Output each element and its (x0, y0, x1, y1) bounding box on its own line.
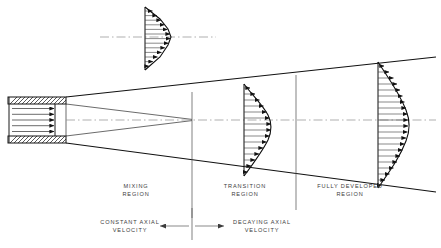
region-label-mixing-line1: MIXING (124, 183, 149, 189)
region-label-fully-developed-line2: REGION (336, 191, 363, 197)
exit-velocity-profile-detail (145, 7, 171, 70)
axial-velocity-annotations: CONSTANT AXIAL VELOCITY DECAYING AXIAL V… (100, 208, 291, 240)
diagram-canvas: MIXING REGION TRANSITION REGION FULLY DE… (0, 0, 441, 248)
annotation-constant-line1: CONSTANT AXIAL (100, 219, 159, 225)
region-label-transition-line1: TRANSITION (224, 183, 266, 189)
nozzle-assembly (8, 97, 66, 143)
region-labels: MIXING REGION TRANSITION REGION FULLY DE… (122, 183, 382, 197)
fully-developed-profile-envelope (378, 62, 409, 188)
annotation-decaying-line2: VELOCITY (245, 227, 279, 233)
region-label-fully-developed-line1: FULLY DEVELOPED (317, 183, 382, 189)
annotation-constant-line2: VELOCITY (113, 227, 147, 233)
transition-velocity-profile (244, 84, 271, 176)
free-jet-diagram: MIXING REGION TRANSITION REGION FULLY DE… (0, 0, 441, 248)
nozzle-lower-wall (8, 136, 66, 143)
region-label-transition-line2: REGION (231, 191, 258, 197)
region-label-mixing-line2: REGION (122, 191, 149, 197)
potential-core-upper (66, 104, 192, 119)
potential-core-lower (66, 121, 192, 136)
fully-developed-velocity-profile (378, 62, 409, 188)
fully-developed-profile-arrows (378, 66, 408, 185)
annotation-decaying-line1: DECAYING AXIAL (233, 219, 291, 225)
jet-upper-boundary (66, 57, 436, 97)
nozzle-internal-flow-arrows (12, 109, 54, 132)
jet-boundaries (66, 57, 436, 192)
detail-profile-arrows (145, 11, 171, 66)
nozzle-upper-wall (8, 97, 66, 104)
